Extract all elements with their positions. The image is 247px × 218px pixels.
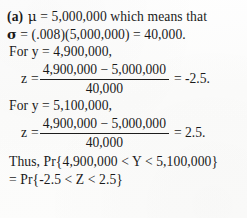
z-score-lower-equation: z = 4,900,000 − 5,000,000 40,000 = -2.5.	[7, 62, 241, 97]
denominator-upper: 40,000	[83, 134, 126, 151]
fraction-lower: 4,900,000 − 5,000,000 40,000	[40, 62, 169, 97]
for-y-upper-line: For y = 5,100,000,	[7, 97, 241, 115]
z-variable-lower: z	[7, 71, 31, 87]
fraction-upper: 4,900,000 − 5,000,000 40,000	[40, 116, 169, 151]
z-equals-upper: =	[31, 125, 39, 141]
for-y-lower-line: For y = 4,900,000,	[7, 43, 241, 61]
z-probability-line: = Pr{-2.5 < Z < 2.5}	[7, 171, 241, 189]
mu-symbol: μ	[28, 8, 37, 24]
mean-equals-sign: =	[40, 9, 48, 24]
part-label: (a)	[7, 9, 23, 24]
denominator-lower: 40,000	[83, 80, 126, 97]
numerator-lower: 4,900,000 − 5,000,000	[40, 62, 169, 79]
z-equals-lower: =	[31, 71, 39, 87]
mean-value: 5,000,000	[52, 9, 107, 24]
thus-probability-line: Thus, Pr{4,900,000 < Y < 5,100,000}	[7, 153, 241, 171]
sigma-expression: = (.008)(5,000,000) = 40,000.	[20, 27, 185, 42]
z-result-upper: = 2.5.	[170, 125, 205, 141]
sigma-symbol: σ	[7, 27, 17, 42]
z-result-lower: = -2.5.	[170, 71, 210, 87]
mean-trailing-text: which means that	[110, 9, 207, 24]
standard-deviation-line: σ = (.008)(5,000,000) = 40,000.	[7, 26, 241, 44]
solution-text-block: (a) μ = 5,000,000 which means that σ = (…	[0, 0, 247, 218]
mean-statement-line: (a) μ = 5,000,000 which means that	[7, 8, 241, 26]
z-variable-upper: z	[7, 125, 31, 141]
numerator-upper: 4,900,000 − 5,000,000	[40, 116, 169, 133]
z-score-upper-equation: z = 4,900,000 − 5,000,000 40,000 = 2.5.	[7, 116, 241, 151]
